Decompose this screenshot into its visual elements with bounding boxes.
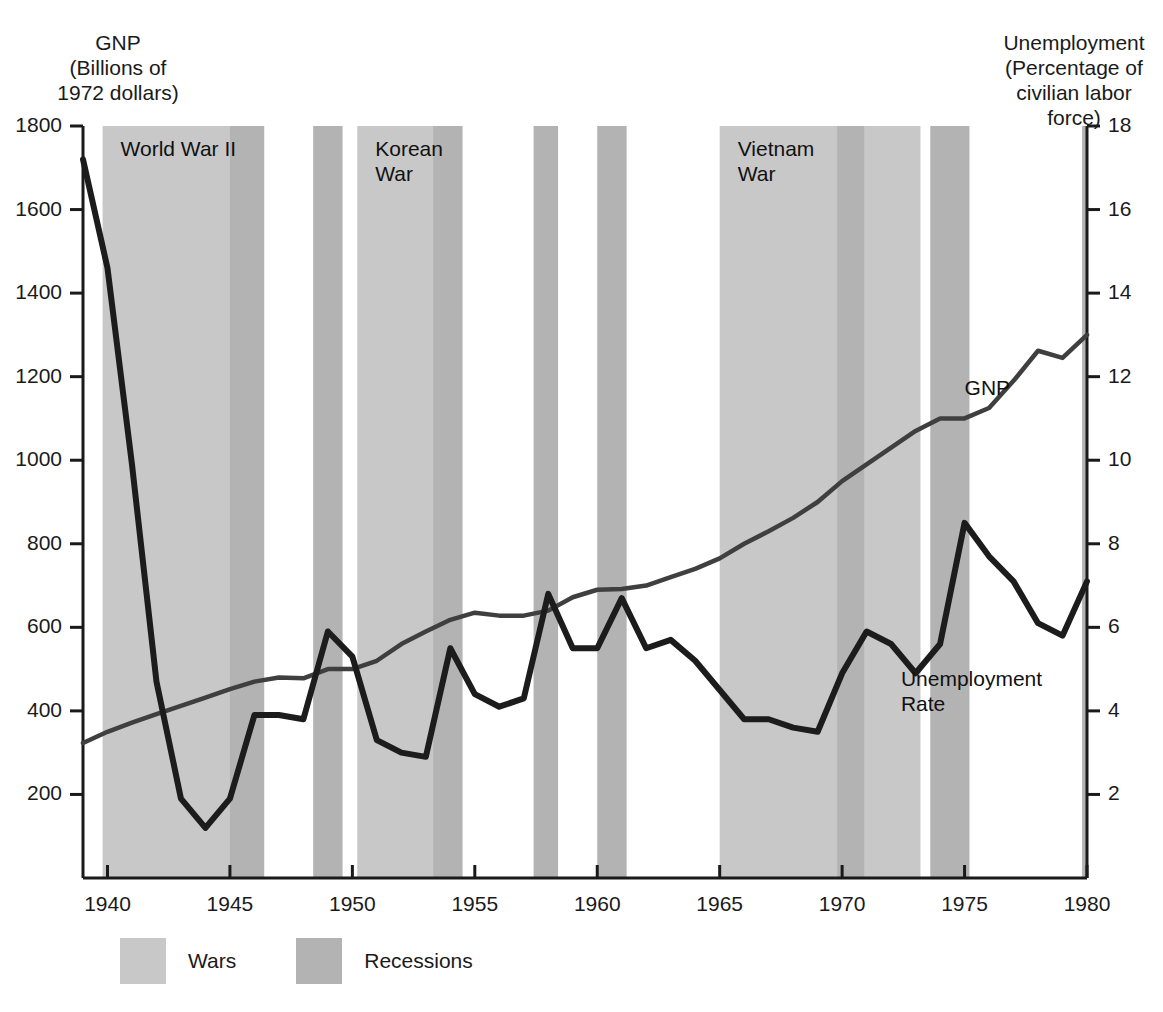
right-axis-tick-label: 8 <box>1108 531 1163 555</box>
left-axis-tick-label: 1400 <box>0 280 62 304</box>
recession-band <box>597 126 626 878</box>
recession-band <box>930 126 969 878</box>
right-axis-tick-label: 18 <box>1108 113 1163 137</box>
right-axis-tick-label: 12 <box>1108 364 1163 388</box>
war-band-label: World War II <box>121 136 237 161</box>
left-axis-tick-label: 1200 <box>0 364 62 388</box>
war-band <box>357 126 440 878</box>
war-band-label: Vietnam War <box>738 136 815 186</box>
left-axis-tick-label: 1800 <box>0 113 62 137</box>
recession-band <box>837 126 864 878</box>
x-axis-tick-label: 1945 <box>190 892 270 916</box>
left-axis-tick-label: 1000 <box>0 447 62 471</box>
x-axis-tick-label: 1940 <box>67 892 147 916</box>
x-axis-tick-label: 1955 <box>435 892 515 916</box>
left-axis-tick-label: 200 <box>0 781 62 805</box>
recession-band <box>433 126 462 878</box>
right-axis-tick-label: 4 <box>1108 698 1163 722</box>
legend-swatch-wars <box>120 938 166 984</box>
x-axis-tick-label: 1960 <box>557 892 637 916</box>
legend-item-wars[interactable]: Wars <box>120 938 236 984</box>
recession-band <box>534 126 558 878</box>
right-axis-tick-label: 14 <box>1108 280 1163 304</box>
right-axis-tick-label: 6 <box>1108 614 1163 638</box>
x-axis-tick-label: 1980 <box>1047 892 1127 916</box>
legend-swatch-recessions <box>296 938 342 984</box>
gnp-series-label: GNP <box>965 375 1011 400</box>
x-axis-tick-label: 1950 <box>312 892 392 916</box>
legend-label: Recessions <box>364 949 473 973</box>
left-axis-tick-label: 1600 <box>0 197 62 221</box>
chart-container: GNP (Billions of 1972 dollars) Unemploym… <box>0 0 1163 1012</box>
left-axis-tick-label: 800 <box>0 531 62 555</box>
unemployment-series-label: Unemployment Rate <box>901 666 1042 716</box>
x-axis-tick-label: 1970 <box>802 892 882 916</box>
legend-label: Wars <box>188 949 236 973</box>
legend-item-recessions[interactable]: Recessions <box>296 938 473 984</box>
x-axis-tick-label: 1965 <box>680 892 760 916</box>
recession-band <box>230 126 264 878</box>
right-axis-tick-label: 16 <box>1108 197 1163 221</box>
left-axis-tick-label: 400 <box>0 698 62 722</box>
chart-legend: WarsRecessions <box>120 938 473 984</box>
right-axis-tick-label: 2 <box>1108 781 1163 805</box>
recession-band <box>313 126 342 878</box>
right-axis-tick-label: 10 <box>1108 447 1163 471</box>
war-band-label: Korean War <box>375 136 443 186</box>
left-axis-tick-label: 600 <box>0 614 62 638</box>
x-axis-tick-label: 1975 <box>925 892 1005 916</box>
